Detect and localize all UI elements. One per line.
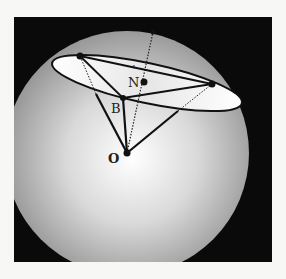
point-O xyxy=(124,150,131,157)
sphere-diagram: N ' B O xyxy=(0,0,286,279)
point-B xyxy=(120,95,126,101)
point-right xyxy=(209,81,216,88)
label-N-accent: ' xyxy=(132,63,136,78)
label-O: O xyxy=(108,151,119,166)
point-left xyxy=(77,53,84,60)
point-top xyxy=(151,30,156,35)
label-B: B xyxy=(111,101,121,116)
point-N xyxy=(141,79,148,86)
